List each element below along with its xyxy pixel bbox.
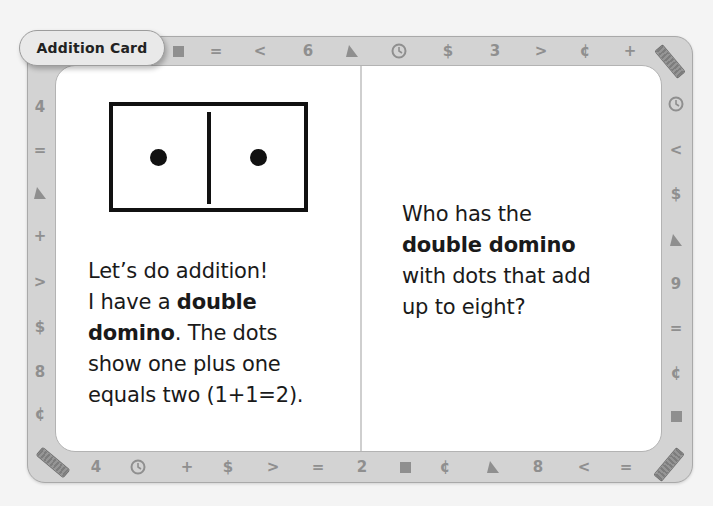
equals-icon: =	[306, 455, 330, 479]
right-line-3: with dots that add	[402, 261, 652, 292]
clock-icon	[664, 92, 688, 116]
dollar-icon: $	[28, 315, 52, 339]
right-line-1: Who has the	[402, 199, 652, 230]
number-eight: 8	[526, 455, 550, 479]
left-panel-text: Let’s do addition! I have a double domin…	[88, 256, 358, 411]
clock-icon	[126, 455, 150, 479]
left-line-5: equals two (1+1=2).	[88, 380, 358, 411]
triangle-icon	[28, 181, 52, 205]
number-four: 4	[28, 95, 52, 119]
cent-icon: ¢	[433, 455, 457, 479]
right-line-2: double domino	[402, 230, 652, 261]
double-domino-one	[109, 102, 308, 212]
number-three: 3	[483, 39, 507, 63]
left-line-1: Let’s do addition!	[88, 256, 358, 287]
square-icon	[166, 39, 190, 63]
domino-dot-right	[250, 149, 267, 166]
card-title-tab: Addition Card	[19, 30, 165, 66]
equals-icon: =	[614, 455, 638, 479]
left-line-2: I have a double	[88, 287, 358, 318]
number-nine: 9	[664, 272, 688, 296]
domino-divider	[207, 112, 211, 204]
square-icon	[664, 404, 688, 428]
number-eight: 8	[28, 360, 52, 384]
plus-icon: +	[28, 224, 52, 248]
clock-icon	[387, 39, 411, 63]
less-than-icon: <	[664, 138, 688, 162]
greater-than-icon: >	[529, 39, 553, 63]
number-six: 6	[296, 39, 320, 63]
number-two: 2	[350, 455, 374, 479]
plus-icon: +	[618, 39, 642, 63]
dollar-icon: $	[436, 39, 460, 63]
right-panel-text: Who has the double domino with dots that…	[402, 199, 652, 323]
right-line-4: up to eight?	[402, 292, 652, 323]
cent-icon: ¢	[28, 402, 52, 426]
left-line-4: show one plus one	[88, 349, 358, 380]
equals-icon: =	[664, 316, 688, 340]
less-than-icon: <	[248, 39, 272, 63]
dollar-icon: $	[664, 182, 688, 206]
greater-than-icon: >	[28, 270, 52, 294]
triangle-icon	[481, 455, 505, 479]
equals-icon: =	[28, 138, 52, 162]
cent-icon: ¢	[573, 39, 597, 63]
dollar-icon: $	[216, 455, 240, 479]
greater-than-icon: >	[261, 455, 285, 479]
panel-divider	[360, 66, 362, 451]
domino-dot-left	[150, 149, 167, 166]
card-title: Addition Card	[37, 40, 148, 56]
triangle-icon	[340, 39, 364, 63]
triangle-icon	[664, 228, 688, 252]
number-four: 4	[84, 455, 108, 479]
cent-icon: ¢	[664, 361, 688, 385]
equals-icon: =	[204, 39, 228, 63]
plus-icon: +	[175, 455, 199, 479]
square-icon	[393, 455, 417, 479]
less-than-icon: <	[572, 455, 596, 479]
left-line-3: domino. The dots	[88, 318, 358, 349]
